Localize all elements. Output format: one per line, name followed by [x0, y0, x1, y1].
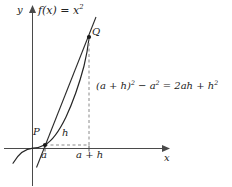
- rise-equation-label: (a + h)2 − a2 = 2ah + h2: [96, 81, 218, 91]
- function-label-exponent: 2: [79, 3, 83, 11]
- equation-rhs-exponent: 2: [214, 79, 218, 86]
- run-h-label: h: [62, 128, 68, 138]
- parabola-curve: [13, 36, 89, 163]
- equation-minus-term: − a: [135, 80, 156, 91]
- x-tick-label-a: a: [41, 150, 47, 160]
- equation-lhs-open: (a + h): [96, 80, 131, 91]
- equation-rhs: = 2ah + h: [160, 80, 215, 91]
- x-axis-arrowhead: [162, 145, 170, 152]
- x-tick-label-a-plus-h: a + h: [76, 150, 103, 160]
- y-axis-label: y: [17, 5, 23, 15]
- y-axis-arrowhead: [29, 5, 36, 13]
- y-axis: [29, 5, 36, 186]
- point-P-marker: [43, 143, 47, 147]
- figure-derivative-parabola: y x f(x) = x2 Q P h a a + h (a + h)2 − a…: [0, 0, 232, 187]
- point-Q-label: Q: [92, 27, 100, 37]
- function-label-base: f(x) = x: [38, 4, 79, 17]
- point-P-label: P: [33, 127, 40, 137]
- point-Q-marker: [87, 35, 91, 39]
- function-label: f(x) = x2: [38, 5, 84, 16]
- x-axis-label: x: [164, 153, 170, 163]
- figure-canvas: [0, 0, 232, 187]
